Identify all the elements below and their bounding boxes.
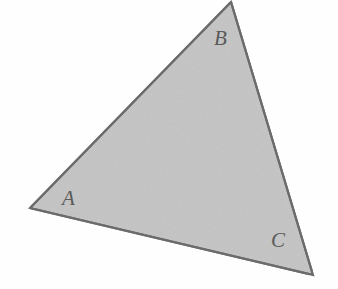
vertex-label-a: A (62, 188, 75, 209)
vertex-label-b: B (214, 28, 227, 49)
triangle-figure (0, 0, 338, 289)
vertex-label-c: C (271, 230, 286, 251)
figure-canvas: A B C (0, 0, 338, 289)
